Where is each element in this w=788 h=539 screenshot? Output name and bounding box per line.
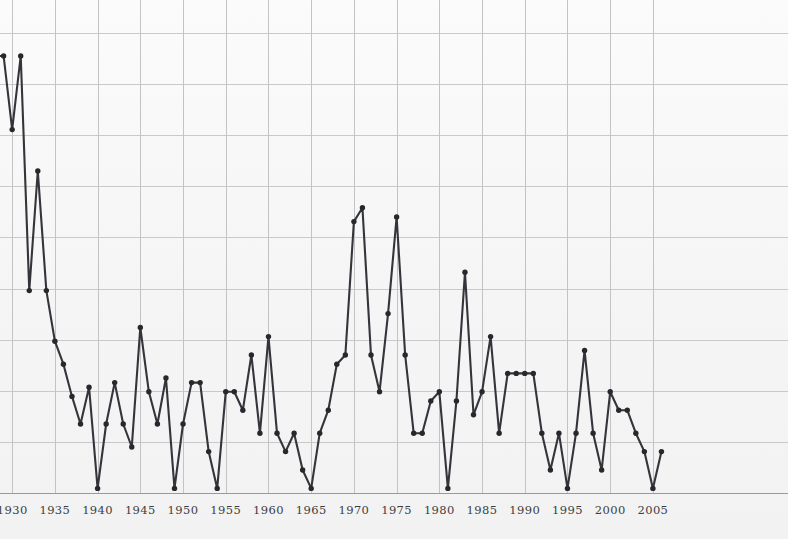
x-tick-label-1995: 1995 — [552, 503, 583, 517]
x-tick-label-2000: 2000 — [595, 503, 626, 517]
vertical-gridlines — [13, 0, 654, 493]
chart-container: 1930193519401945195019551960196519701975… — [0, 0, 788, 539]
x-tick-label-1965: 1965 — [296, 503, 327, 517]
x-tick-label-1945: 1945 — [125, 503, 156, 517]
x-tick-label-1975: 1975 — [381, 503, 412, 517]
x-tick-label-1950: 1950 — [168, 503, 199, 517]
x-tick-label-1970: 1970 — [338, 503, 369, 517]
line-chart-svg — [0, 0, 788, 539]
x-tick-label-1930: 1930 — [0, 503, 28, 517]
x-tick-label-1955: 1955 — [210, 503, 241, 517]
plot-area: 1930193519401945195019551960196519701975… — [0, 0, 788, 539]
x-tick-label-2005: 2005 — [637, 503, 668, 517]
x-tick-label-1990: 1990 — [509, 503, 540, 517]
x-tick-label-1985: 1985 — [467, 503, 498, 517]
data-point-markers — [0, 53, 664, 491]
data-series-line — [0, 56, 661, 488]
x-tick-label-1960: 1960 — [253, 503, 284, 517]
horizontal-gridlines — [0, 34, 788, 494]
x-tick-label-1940: 1940 — [82, 503, 113, 517]
x-tick-label-1980: 1980 — [424, 503, 455, 517]
x-tick-label-1935: 1935 — [39, 503, 70, 517]
